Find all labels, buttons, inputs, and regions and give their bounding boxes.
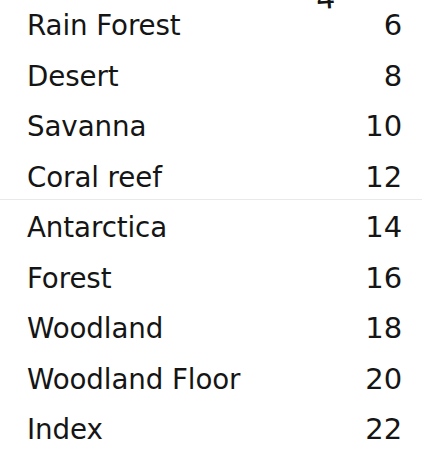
toc-entry-page-number: 16 [365,261,402,295]
toc-entry-title: Woodland Floor [27,362,240,396]
toc-entry-page-number: 22 [365,412,402,446]
toc-entry[interactable]: Forest16 [27,261,402,312]
toc-entry-page-number: 18 [365,311,402,345]
toc-entry[interactable]: Coral reef12 [27,160,402,211]
toc-entry-title: Forest [27,261,111,295]
toc-entry-page-number: 10 [365,109,402,143]
toc-entry-page-number: 20 [365,362,402,396]
toc-entry[interactable]: Rain Forest6 [27,8,402,59]
toc-entry-page-number: 8 [384,59,402,93]
toc-entry-page-number: 12 [365,160,402,194]
toc-entry[interactable]: Desert8 [27,59,402,110]
toc-entry-title: Coral reef [27,160,162,194]
toc-entry-title: Desert [27,59,119,93]
toc-entry[interactable]: Woodland18 [27,311,402,362]
toc-page: 4 Rain Forest6Desert8Savanna10Coral reef… [0,0,422,469]
toc-entry[interactable]: Savanna10 [27,109,402,160]
toc-entry[interactable]: Woodland Floor20 [27,362,402,413]
toc-entry-title: Index [27,412,103,446]
toc-entry-title: Savanna [27,109,146,143]
toc-entry-page-number: 14 [365,210,402,244]
toc-entry-page-number: 6 [384,8,402,42]
toc-entry-title: Rain Forest [27,8,181,42]
toc-entry-title: Woodland [27,311,163,345]
toc-entry-title: Antarctica [27,210,167,244]
toc-entry[interactable]: Antarctica14 [27,210,402,261]
toc-entry[interactable]: Index22 [27,412,402,463]
